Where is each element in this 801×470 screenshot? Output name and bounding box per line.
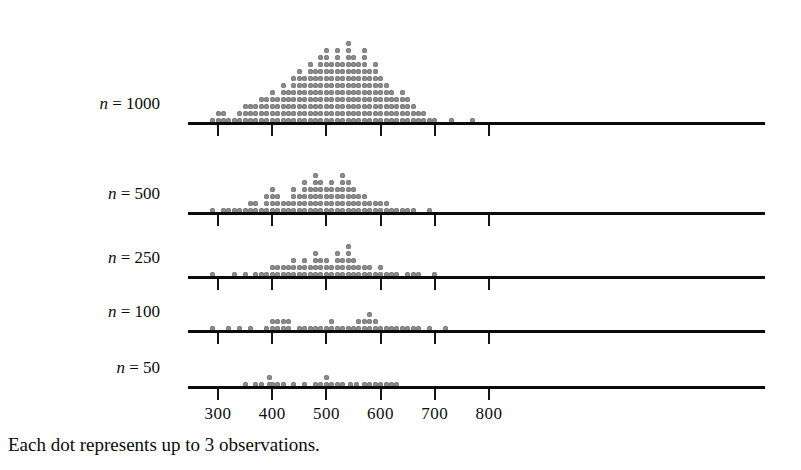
data-dot [346, 244, 351, 249]
data-dot [346, 104, 351, 109]
data-dot [389, 104, 394, 109]
data-dot [367, 111, 372, 116]
data-dot [351, 83, 356, 88]
data-dot [318, 62, 323, 67]
data-dot [313, 76, 318, 81]
data-dot [324, 76, 329, 81]
data-dot [297, 111, 302, 116]
data-dot [329, 265, 334, 270]
data-dot [362, 76, 367, 81]
data-dot [275, 194, 280, 199]
data-dot [346, 83, 351, 88]
data-dot [324, 104, 329, 109]
data-dot [373, 104, 378, 109]
row-label-1000: n = 1000 [10, 94, 160, 114]
data-dot [216, 111, 221, 116]
data-dot [362, 55, 367, 60]
data-dot [286, 90, 291, 95]
data-dot [259, 97, 264, 102]
data-dot [243, 104, 248, 109]
data-dot [340, 62, 345, 67]
data-dot [367, 90, 372, 95]
data-dot [329, 194, 334, 199]
data-dot [329, 90, 334, 95]
data-dot [362, 104, 367, 109]
data-dot [302, 265, 307, 270]
data-dot [367, 97, 372, 102]
data-dot [324, 55, 329, 60]
data-dot [373, 90, 378, 95]
data-dot [281, 83, 286, 88]
data-dot [308, 83, 313, 88]
data-dot [356, 104, 361, 109]
axis-tick [325, 389, 327, 400]
data-dot [275, 97, 280, 102]
data-dot [362, 97, 367, 102]
data-dot [346, 201, 351, 206]
axis-tick [271, 215, 273, 226]
data-dot [291, 111, 296, 116]
axis-line [188, 330, 765, 333]
data-dot [318, 194, 323, 199]
data-dot [400, 97, 405, 102]
data-dot [340, 265, 345, 270]
data-dot [324, 69, 329, 74]
data-dot [281, 201, 286, 206]
axis-tick-label-300: 300 [195, 404, 241, 424]
data-dot [367, 265, 372, 270]
data-dot [324, 111, 329, 116]
data-dot [356, 62, 361, 67]
data-dot [253, 201, 258, 206]
data-dot [308, 194, 313, 199]
axis-tick [488, 333, 490, 344]
data-dot [346, 97, 351, 102]
data-dot [411, 111, 416, 116]
data-dot [302, 90, 307, 95]
data-dot [270, 187, 275, 192]
data-dot [291, 90, 296, 95]
data-dot [335, 55, 340, 60]
data-dot [302, 180, 307, 185]
data-dot [384, 83, 389, 88]
axis-line [188, 276, 765, 279]
axis-tick [217, 125, 219, 136]
axis-tick [488, 125, 490, 136]
dot-layer [0, 0, 801, 470]
axis-tick-label-500: 500 [303, 404, 349, 424]
data-dot [378, 201, 383, 206]
data-dot [373, 83, 378, 88]
data-dot [281, 104, 286, 109]
data-dot [286, 104, 291, 109]
data-dot [340, 90, 345, 95]
data-dot [400, 104, 405, 109]
data-dot [270, 97, 275, 102]
data-dot [389, 90, 394, 95]
data-dot [313, 251, 318, 256]
data-dot [367, 319, 372, 324]
axis-tick [380, 333, 382, 344]
data-dot [346, 76, 351, 81]
data-dot [297, 194, 302, 199]
data-dot [275, 104, 280, 109]
data-dot [346, 62, 351, 67]
data-dot [318, 55, 323, 60]
data-dot [362, 265, 367, 270]
data-dot [351, 97, 356, 102]
data-dot [373, 69, 378, 74]
figure-caption: Each dot represents up to 3 observations… [8, 434, 320, 456]
axis-tick [380, 389, 382, 400]
data-dot [384, 111, 389, 116]
data-dot [302, 194, 307, 199]
data-dot [329, 76, 334, 81]
data-dot [302, 258, 307, 263]
data-dot [346, 251, 351, 256]
data-dot [313, 187, 318, 192]
data-dot [318, 90, 323, 95]
data-dot [308, 97, 313, 102]
data-dot [389, 111, 394, 116]
data-dot [313, 258, 318, 263]
axis-tick [325, 279, 327, 290]
data-dot [286, 319, 291, 324]
data-dot [297, 201, 302, 206]
data-dot [362, 111, 367, 116]
